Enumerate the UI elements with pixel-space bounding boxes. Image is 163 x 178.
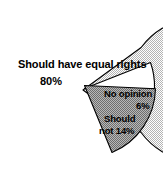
pie-chart: Should have equal rights 80% No opinion … [0, 0, 163, 178]
pie-chart-graphic [0, 0, 163, 178]
pie-slice-should-not [85, 86, 156, 153]
